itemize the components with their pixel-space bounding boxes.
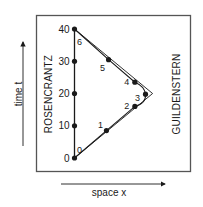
- time-tick-dot: [72, 59, 77, 64]
- time-axis-label: time t: [13, 82, 24, 107]
- event-label: 3: [135, 93, 140, 103]
- event-label: 1: [98, 120, 103, 130]
- time-tick-label: 20: [58, 88, 70, 99]
- guildenstern-label: GUILDENSTERN: [171, 54, 182, 135]
- event-label: 2: [124, 101, 129, 111]
- event-label: 4: [124, 77, 129, 87]
- time-tick-label: 30: [58, 56, 70, 67]
- time-tick-dot: [72, 155, 77, 160]
- time-tick-dot: [72, 91, 77, 96]
- space-axis-label: space x: [92, 187, 126, 198]
- event-dot: [132, 104, 137, 109]
- event-label: 5: [100, 63, 105, 73]
- time-tick-label: 0: [64, 153, 70, 164]
- event-label: 0: [77, 145, 82, 155]
- time-tick-dot: [72, 26, 77, 31]
- rosencrantz-label: ROSENCRANTZ: [43, 55, 54, 133]
- time-tick-label: 10: [58, 120, 70, 131]
- time-tick-dot: [72, 123, 77, 128]
- time-tick-label: 40: [58, 24, 70, 35]
- event-dot: [143, 92, 148, 97]
- event-label: 6: [77, 37, 82, 47]
- event-dot: [104, 128, 109, 133]
- plot-area: 0102030400123456: [58, 24, 152, 164]
- event-dot: [132, 80, 137, 85]
- light-signal-path: [75, 29, 153, 158]
- spacetime-diagram: time t space x ROSENCRANTZ GUILDENSTERN …: [0, 0, 203, 207]
- event-dot: [106, 57, 111, 62]
